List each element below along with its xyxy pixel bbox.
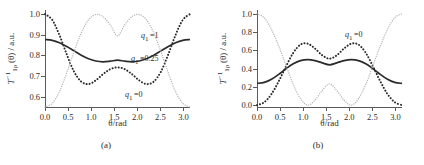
- plot-area-b: 0.00.20.40.60.81.0 0.00.51.01.52.02.53.0…: [257, 10, 402, 107]
- x-tick-mark: [280, 107, 281, 111]
- x-tick-mark: [303, 107, 304, 111]
- curve-annotation: q1 =1: [141, 31, 159, 43]
- x-tick-mark: [257, 107, 258, 111]
- x-tick-mark: [137, 107, 138, 111]
- y-axis-title-b: T−11ρ (θ) / a.u.: [216, 10, 230, 107]
- curve-annotation: q1 =0.25: [131, 54, 159, 66]
- curves-b: [257, 10, 402, 107]
- x-axis-line-a: [45, 107, 190, 108]
- x-axis-line-b: [257, 107, 402, 108]
- x-tick-mark: [372, 107, 373, 111]
- y-tick-label: 0.6: [29, 92, 40, 101]
- x-tick-mark: [160, 107, 161, 111]
- x-tick-mark: [91, 107, 92, 111]
- y-tick-label: 0.9: [29, 31, 40, 40]
- curve-dotted: [257, 14, 402, 106]
- y-tick-label: 0.2: [241, 83, 252, 92]
- x-tick-mark: [395, 107, 396, 111]
- curve-annotation: q1 =0: [125, 90, 143, 102]
- curve-solid: [45, 40, 190, 62]
- y-tick-label: 0.7: [29, 72, 40, 81]
- y-tick-label: 0.8: [29, 51, 40, 60]
- panel-a: 0.60.70.80.91.0 0.00.51.01.52.02.53.0 q1…: [0, 0, 212, 165]
- y-tick-label: 1.0: [241, 9, 252, 18]
- figure-two-panel-relaxation-curves: 0.60.70.80.91.0 0.00.51.01.52.02.53.0 q1…: [0, 0, 424, 165]
- curves-a: [45, 10, 190, 107]
- plot-area-a: 0.60.70.80.91.0 0.00.51.01.52.02.53.0 q1…: [45, 10, 190, 107]
- y-tick-label: 1.0: [29, 10, 40, 19]
- x-tick-mark: [326, 107, 327, 111]
- y-tick-label: 0.0: [241, 101, 252, 110]
- y-tick-label: 0.8: [241, 28, 252, 37]
- curve-annotation: q1 =0: [345, 30, 363, 42]
- x-axis-title-a: θ/rad: [45, 118, 190, 128]
- x-tick-mark: [114, 107, 115, 111]
- x-tick-mark: [183, 107, 184, 111]
- x-tick-mark: [349, 107, 350, 111]
- x-axis-title-b: θ/rad: [257, 118, 402, 128]
- y-axis-title-a: T−11ρ (θ) / a.u.: [4, 10, 18, 107]
- x-tick-mark: [68, 107, 69, 111]
- panel-b: 0.00.20.40.60.81.0 0.00.51.01.52.02.53.0…: [212, 0, 424, 165]
- panel-caption-a: (a): [0, 140, 212, 150]
- panel-caption-b: (b): [212, 140, 424, 150]
- y-tick-label: 0.6: [241, 46, 252, 55]
- y-tick-label: 0.4: [241, 64, 252, 73]
